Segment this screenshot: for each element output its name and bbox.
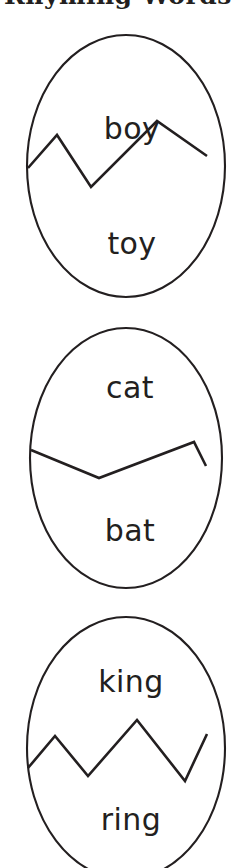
worksheet-heading: Rhyming Words [0,0,252,9]
egg-card: cat bat [0,326,252,592]
egg-outline [30,328,222,588]
egg-card: boy toy [0,32,252,300]
worksheet-heading-text: Rhyming Words [4,0,232,9]
egg-bottom-word: ring [101,802,161,837]
egg-bottom-word: toy [107,226,156,261]
egg-top-word: king [98,664,163,699]
egg-bottom-word: bat [105,513,155,548]
egg-top-word: boy [104,111,160,146]
egg-top-word: cat [106,370,154,405]
egg-card: king ring [0,616,252,868]
